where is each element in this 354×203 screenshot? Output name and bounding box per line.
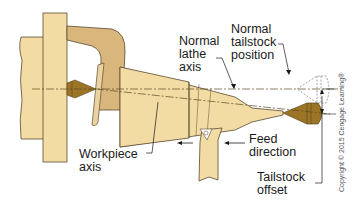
label-workpiece-axis: Workpiece axis <box>79 148 138 174</box>
cutting-tool <box>199 128 222 181</box>
headstock <box>20 37 44 139</box>
label-normal-tailstock-position: Normal tailstock position <box>231 23 276 62</box>
arrow-head <box>286 70 291 75</box>
copyright-notice: Copyright © 2015 Cengage Learning® <box>338 73 345 192</box>
workpiece-body <box>120 67 189 147</box>
label-normal-lathe-axis: Normal lathe axis <box>179 35 219 74</box>
label-tailstock-offset: Tailstock offset <box>257 171 305 197</box>
label-feed-direction: Feed direction <box>249 133 296 159</box>
leader-normal-tailstock-position <box>278 44 289 73</box>
faceplate <box>43 13 67 162</box>
tailstock-center-normal-ghost <box>297 76 329 103</box>
tailstock-center-offset <box>283 103 322 124</box>
arrow-head <box>231 84 236 89</box>
